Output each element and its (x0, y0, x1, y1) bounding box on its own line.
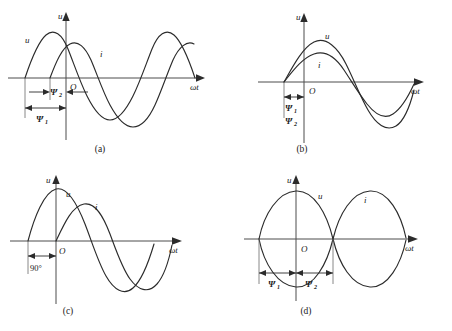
panel-a-psi1-arrowhead-left (25, 105, 32, 111)
panel-d: Ψ 1 Ψ 2 u ωt O u i (d) (226, 166, 452, 331)
panel-d-x-axis-label: ωt (405, 243, 414, 253)
panel-a: Ψ 2 Ψ 1 u ωt O u i (a) (0, 0, 226, 165)
panel-d-caption: (d) (300, 306, 311, 317)
panel-b-psi1-label: Ψ (285, 103, 293, 113)
panel-c-y-axis-label: u (46, 175, 51, 185)
panel-c-angle-arrowhead-left (28, 253, 35, 259)
panel-b-y-axis-arrowhead (300, 13, 307, 22)
panel-b-curve-u-label: u (325, 31, 330, 41)
panel-c-curve-u (28, 189, 154, 292)
panel-c-x-axis-label: ωt (169, 245, 178, 255)
panel-d-origin-label: O (301, 244, 308, 254)
panel-c-curve-u-label: u (66, 189, 71, 199)
panel-a-y-axis-arrowhead (62, 12, 69, 21)
panel-d-psi1-subscript: 1 (277, 284, 280, 290)
panel-d-y-axis-arrowhead (292, 175, 299, 184)
panel-b-y-axis-label: u (296, 12, 301, 22)
waveform-figure: Ψ 2 Ψ 1 u ωt O u i (a) (0, 0, 452, 331)
panel-c-caption: (c) (63, 306, 74, 317)
panel-a-y-axis-label: u (58, 11, 63, 21)
panel-a-x-axis-arrowhead (196, 74, 205, 82)
panel-d-psi1-arrowhead-right (289, 270, 296, 276)
panel-c-curve-i (56, 204, 172, 290)
panel-a-psi2-arrowhead-right (43, 89, 50, 95)
panel-c: 90° u ωt O u i (c) (0, 166, 226, 331)
panel-b-psi2-label: Ψ (285, 116, 293, 126)
panel-c-x-axis-arrowhead (172, 237, 182, 245)
panel-d-curve-i-label: i (364, 195, 367, 205)
panel-d-x-axis-arrowhead (408, 235, 418, 243)
panel-d-psi1-label: Ψ (268, 279, 276, 289)
panel-a-curve-u-label: u (25, 35, 30, 45)
panel-b-psi2-subscript: 2 (293, 121, 297, 127)
panel-d-psi2-subscript: 2 (313, 284, 317, 290)
panel-d-psi2-arrowhead-right (326, 270, 333, 276)
panel-b-curve-i-label: i (318, 60, 321, 70)
panel-a-psi1-arrowhead-right (59, 105, 66, 111)
panel-a-x-axis-label: ωt (190, 82, 199, 92)
panel-a-psi1-subscript: 1 (45, 119, 48, 125)
panel-b-psi-arrowhead-left (284, 94, 291, 100)
panel-a-caption: (a) (95, 144, 106, 155)
panel-c-angle-label: 90° (30, 263, 42, 273)
panel-b-psi1-subscript: 1 (294, 108, 297, 114)
panel-a-curve-i-label: i (100, 49, 103, 59)
panel-c-angle-arrowhead-right (49, 253, 56, 259)
panel-d-curve-u-label: u (318, 191, 323, 201)
panel-b-x-axis-arrowhead (414, 78, 424, 86)
panel-d-psi1-arrowhead-left (259, 270, 266, 276)
panel-d-psi2-arrowhead-left (296, 270, 303, 276)
panel-a-psi1-label: Ψ (36, 114, 44, 124)
panel-c-y-axis-arrowhead (52, 175, 59, 184)
panel-c-origin-label: O (59, 246, 66, 256)
panel-b: Ψ 1 Ψ 2 u ωt O u i (b) (226, 0, 452, 165)
panel-b-caption: (b) (296, 144, 307, 155)
panel-b-origin-label: O (309, 86, 316, 96)
panel-b-psi-arrowhead-right (297, 94, 304, 100)
panel-a-psi2-label: Ψ (50, 87, 58, 97)
panel-d-psi2-label: Ψ (305, 279, 313, 289)
panel-a-psi2-subscript: 2 (58, 92, 62, 98)
panel-d-y-axis-label: u (287, 175, 292, 185)
panel-b-x-axis-label: ωt (411, 86, 420, 96)
panel-a-origin-label: O (70, 82, 77, 92)
